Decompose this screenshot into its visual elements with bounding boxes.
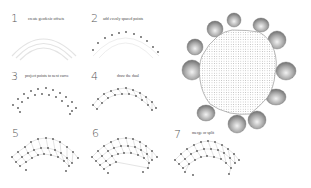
mesh-step-5-illustration bbox=[0, 120, 90, 188]
projected-points-illustration bbox=[0, 60, 90, 115]
geodesic-offsets-illustration bbox=[0, 0, 90, 60]
mesh-blob-rendering bbox=[170, 0, 311, 140]
spaced-points-illustration bbox=[85, 0, 175, 60]
dual-illustration bbox=[85, 60, 175, 115]
mesh-step-6-illustration bbox=[85, 120, 175, 188]
